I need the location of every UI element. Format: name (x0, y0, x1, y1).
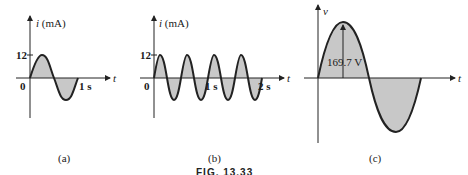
figure-canvas: i (mA) t 12 0 1 s (a) i (mA) t 12 0 1 s … (0, 0, 468, 175)
x-axis-label: t (287, 72, 291, 84)
y-tick-label: 12 (140, 49, 152, 61)
panel-label: (c) (369, 152, 382, 165)
panel-a: i (mA) t 12 0 1 s (a) (16, 16, 117, 165)
y-axis-label: i (mA) (36, 17, 66, 30)
y-axis-label: i (mA) (159, 17, 189, 30)
y-tick-label: 12 (16, 49, 28, 61)
x-axis-label: t (458, 72, 462, 84)
x-tick-label: 1 s (205, 80, 218, 92)
figure-caption: FIG. 13.33 (196, 167, 253, 175)
panel-label: (a) (58, 152, 71, 165)
x-tick-label: 1 s (79, 80, 92, 92)
origin-label: 0 (144, 80, 150, 92)
panel-b: i (mA) t 12 0 1 s 2 s (b) (140, 16, 291, 165)
x-axis-label: t (113, 72, 117, 84)
y-axis-label: v (323, 5, 328, 17)
panel-label: (b) (208, 152, 221, 165)
x-tick-label: 2 s (258, 80, 271, 92)
panel-c: v t 169.7 V (c) (304, 5, 462, 165)
peak-annotation: 169.7 V (327, 56, 362, 68)
origin-label: 0 (20, 80, 26, 92)
